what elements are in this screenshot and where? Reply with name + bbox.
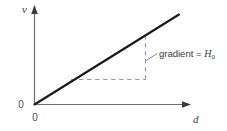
gradient-annotation-prefix: gradient = [159, 48, 204, 59]
origin-label-y-axis: 0 [18, 99, 24, 110]
x-axis-label: d [193, 113, 199, 125]
origin-label-x-axis: 0 [32, 112, 38, 123]
gradient-annotation-subscript: 0 [211, 53, 215, 61]
y-axis-label: v [22, 3, 27, 15]
figure-canvas: v d 0 0 gradient = H0 [0, 0, 227, 131]
velocity-distance-graph-figure: v d 0 0 gradient = H0 [0, 0, 227, 131]
